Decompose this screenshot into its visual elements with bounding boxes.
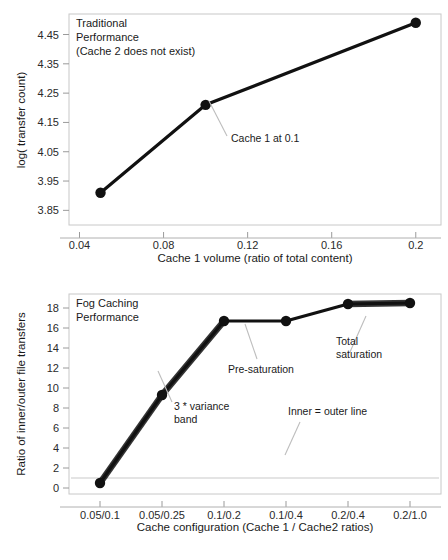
bottom-plot-frame bbox=[69, 294, 441, 494]
inner-equals-outer-leader bbox=[285, 422, 300, 455]
annotation-inner-equals-outer: Inner = outer line bbox=[288, 405, 367, 417]
y-tick-label: 2 bbox=[53, 462, 59, 474]
x-tick-label: 0.08 bbox=[153, 239, 174, 251]
bottom-chart-title-line-1: Fog Caching bbox=[76, 297, 138, 309]
bottom-y-axis-title: Ratio of inner/outer file transfers bbox=[15, 312, 27, 476]
x-tick-label: 0.16 bbox=[321, 239, 342, 251]
annotation-variance-band-line-2: band bbox=[174, 413, 198, 425]
x-tick-label: 0.05/0.1 bbox=[80, 509, 120, 521]
y-tick-label: 8 bbox=[53, 402, 59, 414]
traditional-performance-chart: 3.853.954.054.154.254.354.45 0.040.080.1… bbox=[0, 0, 448, 280]
x-tick-label: 0.12 bbox=[237, 239, 258, 251]
y-tick-label: 3.95 bbox=[38, 175, 59, 187]
bottom-chart-title-line-2: Performance bbox=[76, 311, 139, 323]
top-x-axis-ticks: 0.040.080.120.160.2 bbox=[69, 232, 424, 251]
annotation-total-saturation-line-2: saturation bbox=[336, 348, 382, 360]
y-tick-label: 6 bbox=[53, 422, 59, 434]
data-line bbox=[100, 303, 410, 483]
annotation-total-saturation-line-1: Total bbox=[336, 335, 358, 347]
data-point-marker bbox=[95, 478, 105, 488]
top-chart-title-line-1: Traditional bbox=[76, 17, 127, 29]
x-tick-label: 0.2/1.0 bbox=[393, 509, 427, 521]
annotation-variance-band-line-1: 3 * variance bbox=[174, 400, 230, 412]
annotation-cache1-at-01: Cache 1 at 0.1 bbox=[231, 132, 299, 144]
y-tick-label: 4.35 bbox=[38, 58, 59, 70]
data-point-marker bbox=[281, 316, 291, 326]
y-tick-label: 4.45 bbox=[38, 29, 59, 41]
y-tick-label: 18 bbox=[47, 302, 59, 314]
x-tick-label: 0.1/0.4 bbox=[269, 509, 303, 521]
traditional-chart-svg: 3.853.954.054.154.254.354.45 0.040.080.1… bbox=[0, 0, 448, 280]
y-tick-label: 16 bbox=[47, 322, 59, 334]
data-point-marker bbox=[219, 316, 229, 326]
y-tick-label: 10 bbox=[47, 382, 59, 394]
annotation-pre-saturation: Pre-saturation bbox=[228, 363, 294, 375]
y-tick-label: 4.15 bbox=[38, 116, 59, 128]
fog-chart-svg: 024681012141618 0.05/0.10.05/0.250.1/0.2… bbox=[0, 280, 448, 560]
bottom-x-axis-title: Cache configuration (Cache 1 / Cache2 ra… bbox=[137, 521, 374, 533]
y-tick-label: 4 bbox=[53, 442, 59, 454]
y-tick-label: 14 bbox=[47, 342, 59, 354]
data-point-marker bbox=[95, 188, 105, 198]
data-point-marker bbox=[411, 18, 421, 28]
fog-caching-performance-chart: 024681012141618 0.05/0.10.05/0.250.1/0.2… bbox=[0, 280, 448, 560]
bottom-data-series bbox=[95, 298, 415, 488]
top-annotation-leader bbox=[209, 101, 227, 136]
data-point-marker bbox=[343, 299, 353, 309]
x-tick-label: 0.1/0.2 bbox=[207, 509, 241, 521]
y-tick-label: 0 bbox=[53, 482, 59, 494]
x-tick-label: 0.05/0.25 bbox=[139, 509, 185, 521]
y-tick-label: 12 bbox=[47, 362, 59, 374]
y-tick-label: 3.85 bbox=[38, 204, 59, 216]
x-tick-label: 0.2/0.4 bbox=[331, 509, 365, 521]
bottom-x-axis-ticks: 0.05/0.10.05/0.250.1/0.20.1/0.40.2/0.40.… bbox=[80, 501, 427, 521]
x-tick-label: 0.04 bbox=[69, 239, 90, 251]
y-tick-label: 4.25 bbox=[38, 87, 59, 99]
top-chart-title-line-2: Performance bbox=[76, 31, 139, 43]
x-tick-label: 0.2 bbox=[408, 239, 423, 251]
data-point-marker bbox=[405, 298, 415, 308]
pre-saturation-leader bbox=[245, 324, 257, 359]
data-point-marker bbox=[157, 390, 167, 400]
bottom-y-axis-ticks: 024681012141618 bbox=[47, 302, 69, 494]
top-chart-title-line-3: (Cache 2 does not exist) bbox=[76, 45, 195, 57]
y-tick-label: 4.05 bbox=[38, 146, 59, 158]
top-y-axis-title: log( transfer count) bbox=[15, 72, 27, 169]
top-x-axis-title: Cache 1 volume (ratio of total content) bbox=[158, 252, 353, 264]
top-y-axis-ticks: 3.853.954.054.154.254.354.45 bbox=[38, 29, 69, 217]
